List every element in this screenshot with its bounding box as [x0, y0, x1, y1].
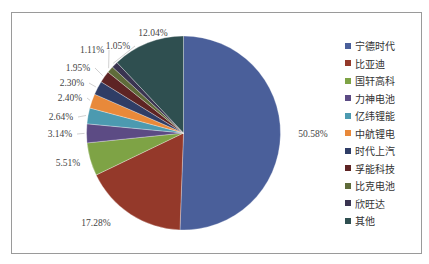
legend-swatch-icon: [345, 165, 351, 171]
legend-swatch-icon: [345, 78, 351, 84]
legend-swatch-icon: [345, 218, 351, 224]
leader-line: [77, 133, 85, 134]
data-label: 2.64%: [49, 112, 74, 122]
legend-item: 其他: [345, 212, 395, 230]
leader-line: [89, 83, 96, 87]
legend-item: 时代上汽: [345, 142, 395, 160]
data-label: 1.05%: [106, 41, 131, 51]
legend-item: 中航锂电: [345, 125, 395, 143]
leader-line: [87, 98, 90, 100]
legend-item: 比亚迪: [345, 55, 395, 73]
data-label: 1.11%: [80, 45, 104, 55]
data-label: 2.30%: [60, 78, 85, 88]
legend-swatch-icon: [345, 183, 351, 189]
legend-item: 孚能科技: [345, 160, 395, 178]
legend-item: 比克电池: [345, 177, 395, 195]
legend-swatch-icon: [345, 130, 351, 136]
legend-swatch-icon: [345, 60, 351, 66]
legend-item: 力神电池: [345, 90, 395, 108]
legend-item: 国轩高科: [345, 72, 395, 90]
data-label: 12.04%: [138, 28, 167, 38]
data-label: 17.28%: [81, 218, 110, 228]
legend-item: 宁德时代: [345, 37, 395, 55]
pie-slice: [180, 36, 281, 230]
legend-swatch-icon: [345, 200, 351, 206]
legend-swatch-icon: [345, 95, 351, 101]
legend-item: 亿纬锂能: [345, 107, 395, 125]
legend-swatch-icon: [345, 113, 351, 119]
legend-swatch-icon: [345, 43, 351, 49]
leader-line: [95, 68, 103, 76]
data-label: 50.58%: [298, 129, 327, 139]
data-label: 1.95%: [66, 63, 91, 73]
chart-legend: 宁德时代 比亚迪 国轩高科 力神电池 亿纬锂能 中航锂电 时代上汽 孚能科技 比…: [345, 37, 395, 230]
legend-swatch-icon: [345, 148, 351, 154]
data-label: 5.51%: [56, 158, 81, 168]
leader-line: [78, 115, 86, 117]
data-label: 3.14%: [48, 129, 73, 139]
legend-item: 欣旺达: [345, 195, 395, 213]
data-label: 2.40%: [58, 93, 83, 103]
